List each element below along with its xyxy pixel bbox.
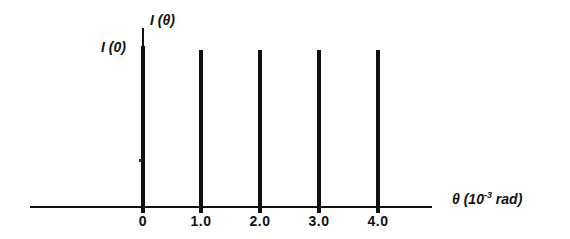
bar-theta-4.0 bbox=[376, 50, 380, 207]
scan-artifact-speck bbox=[139, 159, 142, 162]
peak-intensity-label: I (0) bbox=[101, 39, 126, 55]
tick-mark-0 bbox=[141, 206, 145, 213]
bar-theta-0 bbox=[141, 46, 145, 207]
diffraction-intensity-chart: 0 1.0 2.0 3.0 4.0 I (θ) I (0) θ (10-3 ra… bbox=[0, 0, 570, 239]
tick-label-0: 0 bbox=[123, 213, 163, 229]
tick-mark-1.0 bbox=[199, 206, 203, 213]
tick-mark-3.0 bbox=[317, 206, 321, 213]
x-axis-title-base: θ (10 bbox=[452, 191, 484, 207]
bar-theta-2.0 bbox=[258, 50, 262, 207]
y-axis-title: I (θ) bbox=[150, 12, 175, 28]
bar-theta-1.0 bbox=[199, 50, 203, 207]
plot-area: 0 1.0 2.0 3.0 4.0 I (θ) I (0) θ (10-3 ra… bbox=[0, 0, 570, 239]
x-axis-title-tail: rad) bbox=[492, 191, 522, 207]
tick-label-3.0: 3.0 bbox=[299, 213, 339, 229]
x-axis-title-exponent: -3 bbox=[484, 190, 492, 200]
x-axis-line bbox=[30, 206, 432, 208]
x-axis-title: θ (10-3 rad) bbox=[452, 190, 522, 207]
tick-label-1.0: 1.0 bbox=[181, 213, 221, 229]
tick-mark-2.0 bbox=[258, 206, 262, 213]
bar-theta-3.0 bbox=[317, 50, 321, 207]
tick-mark-4.0 bbox=[376, 206, 380, 213]
tick-label-2.0: 2.0 bbox=[240, 213, 280, 229]
tick-label-4.0: 4.0 bbox=[358, 213, 398, 229]
